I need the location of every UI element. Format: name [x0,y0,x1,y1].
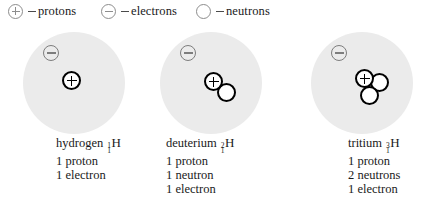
atomic-number-hydrogen: 1 [107,147,111,155]
atomic-number-deuterium: 1 [221,147,225,155]
electron-cloud-tritium [311,32,413,134]
electron-particle [180,45,196,61]
detail-line: 2 neutrons [348,168,400,182]
legend-item-neutrons: neutrons [196,0,270,22]
legend-item-electrons: electrons [101,0,177,22]
electron-particle [43,45,59,61]
atomic-number-tritium: 1 [386,147,390,155]
nuclide-notation-tritium: 3 1 [386,142,390,155]
element-symbol-hydrogen: H [111,136,120,150]
detail-line: 1 proton [166,154,234,168]
caption-deuterium: deuterium 2 1 H 1 proton 1 neutron 1 ele… [166,136,234,197]
caption-tritium: tritium 3 1 H 1 proton 2 neutrons 1 elec… [348,136,400,197]
detail-line: 1 electron [348,182,400,196]
legend-equals-neutrons [216,11,224,12]
isotope-name-line-tritium: tritium 3 1 H [348,136,400,154]
isotope-name-hydrogen: hydrogen [56,136,103,150]
legend: protons electrons neutrons [0,0,423,22]
detail-line: 1 electron [166,182,234,196]
isotope-name-deuterium: deuterium [166,136,217,150]
element-symbol-tritium: H [390,136,399,150]
electron-particle [331,45,347,61]
proton-particle [355,69,374,88]
isotope-name-tritium: tritium [348,136,382,150]
proton-particle [62,71,81,90]
electron-cloud-hydrogen [23,32,125,134]
isotope-name-line-hydrogen: hydrogen 1 1 H [56,136,121,154]
detail-line: 1 proton [56,154,121,168]
legend-label-protons: protons [38,5,76,18]
legend-label-neutrons: neutrons [226,5,270,18]
legend-equals-electrons [121,11,129,12]
legend-label-electrons: electrons [131,5,177,18]
electron-cloud-deuterium [160,32,262,134]
nuclide-notation-hydrogen: 1 1 [107,142,111,155]
legend-item-protons: protons [8,0,76,22]
detail-line: 1 electron [56,168,121,182]
detail-line: 1 neutron [166,168,234,182]
caption-hydrogen: hydrogen 1 1 H 1 proton 1 electron [56,136,121,182]
element-symbol-deuterium: H [225,136,234,150]
proton-particle [204,72,223,91]
detail-line: 1 proton [348,154,400,168]
proton-symbol-icon [8,4,23,19]
isotope-name-line-deuterium: deuterium 2 1 H [166,136,234,154]
electron-symbol-icon [101,4,116,19]
legend-equals-protons [28,11,36,12]
neutron-particle [360,86,379,105]
nuclide-notation-deuterium: 2 1 [221,142,225,155]
neutron-symbol-icon [196,4,211,19]
